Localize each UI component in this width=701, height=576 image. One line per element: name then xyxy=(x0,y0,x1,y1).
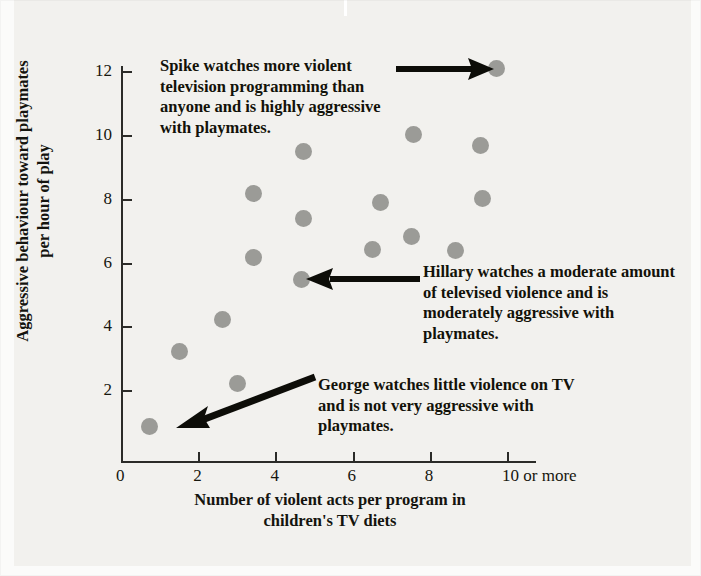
y-axis-title-line2: per hour of play xyxy=(34,144,53,258)
data-point-george xyxy=(141,418,158,435)
annotation-spike: Spike watches more violent television pr… xyxy=(160,56,410,138)
data-point xyxy=(295,210,312,227)
y-tick-label-12: 12 xyxy=(84,61,112,81)
arrow-to-hillary-point xyxy=(300,266,425,292)
x-tick-label-6: 6 xyxy=(348,466,357,486)
page-bottom-margin xyxy=(0,566,701,576)
data-point xyxy=(245,185,262,202)
x-tick-label-8: 8 xyxy=(425,466,434,486)
data-point xyxy=(245,249,262,266)
page-top-notch xyxy=(344,0,347,16)
x-tick-label-10: 10 or more xyxy=(502,466,577,486)
x-axis-title: Number of violent acts per program inchi… xyxy=(120,489,540,531)
annotation-hillary: Hillary watches a moderate amount of tel… xyxy=(423,262,688,344)
annotation-george: George watches little violence on TV and… xyxy=(318,375,588,437)
data-point xyxy=(472,137,489,154)
x-axis-line xyxy=(121,461,536,463)
x-tick-label-2: 2 xyxy=(193,466,202,486)
data-point xyxy=(171,343,188,360)
scatter-plot-figure: 246810120246810 or more Aggressive behav… xyxy=(0,0,701,576)
y-tick-label-6: 6 xyxy=(84,253,112,273)
data-point xyxy=(474,190,491,207)
data-point xyxy=(364,241,381,258)
x-axis-title-line2: children's TV diets xyxy=(264,511,397,530)
x-tick-label-4: 4 xyxy=(270,466,279,486)
data-point xyxy=(447,242,464,259)
y-tick-label-4: 4 xyxy=(84,316,112,336)
y-tick-label-10: 10 xyxy=(84,125,112,145)
x-axis-title-line1: Number of violent acts per program in xyxy=(194,490,465,509)
arrow-to-george-point xyxy=(160,372,320,432)
y-axis-title: Aggressive behaviour toward playmatesper… xyxy=(12,36,54,366)
page-right-margin xyxy=(691,0,701,576)
arrow-to-spike-point xyxy=(394,54,499,84)
data-point xyxy=(403,228,420,245)
y-axis-title-line1: Aggressive behaviour toward playmates xyxy=(13,60,32,341)
data-point xyxy=(295,143,312,160)
y-tick-label-2: 2 xyxy=(84,380,112,400)
data-point xyxy=(214,311,231,328)
y-tick-label-8: 8 xyxy=(84,189,112,209)
x-tick-label-0: 0 xyxy=(116,466,125,486)
data-point xyxy=(372,194,389,211)
